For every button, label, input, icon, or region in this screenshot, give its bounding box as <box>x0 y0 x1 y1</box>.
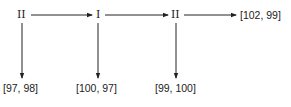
payoff-99-100: [99, 100] <box>155 83 196 94</box>
payoff-100-97: [100, 97] <box>76 83 117 94</box>
node-player-II-1: II <box>17 9 26 20</box>
node-player-II-2: II <box>171 9 180 20</box>
node-player-I: I <box>96 9 100 20</box>
payoff-102-99: [102, 99] <box>240 10 281 21</box>
payoff-97-98: [97, 98] <box>3 83 38 94</box>
